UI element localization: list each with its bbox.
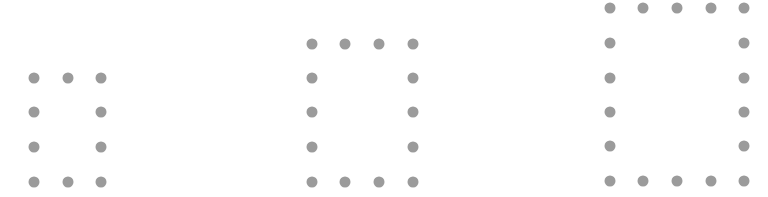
dot — [638, 3, 649, 14]
dot — [739, 3, 750, 14]
dot — [706, 3, 717, 14]
dot — [739, 38, 750, 49]
dot — [739, 141, 750, 152]
dot — [739, 176, 750, 187]
dot — [706, 176, 717, 187]
dot — [739, 73, 750, 84]
dot — [605, 3, 616, 14]
dot — [605, 141, 616, 152]
dot — [605, 107, 616, 118]
dot — [638, 176, 649, 187]
pattern-3 — [0, 0, 768, 197]
dot — [739, 107, 750, 118]
dot — [672, 3, 683, 14]
dot — [605, 38, 616, 49]
dot — [672, 176, 683, 187]
dot — [605, 176, 616, 187]
dot-pattern-diagram — [0, 0, 768, 197]
dot — [605, 73, 616, 84]
